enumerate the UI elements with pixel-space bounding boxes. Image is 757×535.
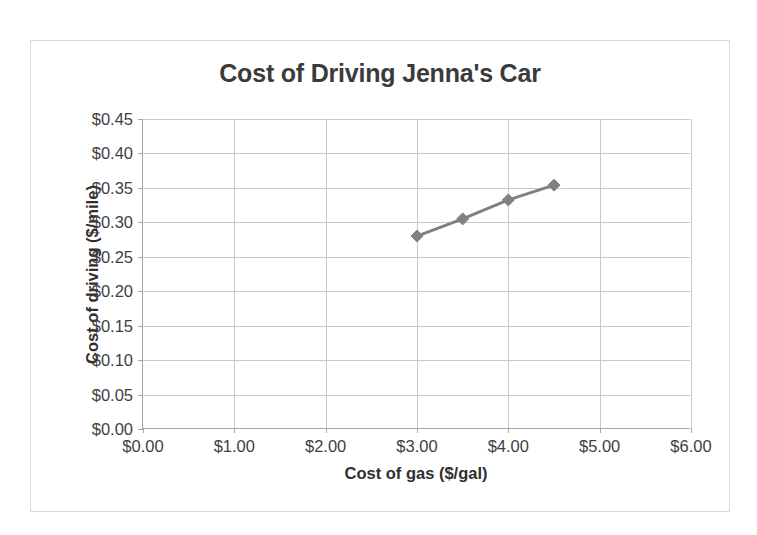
data-point-marker — [411, 230, 423, 242]
y-axis-tick-label: $0.30 — [92, 213, 133, 232]
x-axis-tick-label: $4.00 — [488, 437, 529, 456]
data-point-marker — [548, 179, 560, 191]
y-axis-tick-label: $0.40 — [92, 144, 133, 163]
x-axis-tick-label: $5.00 — [579, 437, 620, 456]
y-axis-tick-label: $0.45 — [92, 110, 133, 129]
x-axis-tick-label: $6.00 — [670, 437, 711, 456]
gridline-vertical — [691, 119, 692, 428]
chart-frame: Cost of Driving Jenna's Car Cost of driv… — [30, 40, 730, 512]
y-axis-tick-label: $0.20 — [92, 282, 133, 301]
x-axis-tick-label: $3.00 — [396, 437, 437, 456]
y-axis-tick-label: $0.35 — [92, 178, 133, 197]
y-axis-tick-label: $0.05 — [92, 385, 133, 404]
plot-area: $0.00$0.05$0.10$0.15$0.20$0.25$0.30$0.35… — [142, 119, 690, 429]
chart-title: Cost of Driving Jenna's Car — [31, 59, 729, 88]
x-axis-title: Cost of gas ($/gal) — [142, 464, 690, 483]
y-axis-tick-label: $0.25 — [92, 247, 133, 266]
x-axis-tick-label: $0.00 — [122, 437, 163, 456]
x-axis-tick-label: $2.00 — [305, 437, 346, 456]
y-axis-title: Cost of driving ($/mile) — [81, 119, 103, 429]
y-axis-tick-label: $0.00 — [92, 420, 133, 439]
data-series-line — [143, 119, 691, 429]
y-axis-title-label: Cost of driving ($/mile) — [83, 185, 102, 364]
y-axis-tick-label: $0.15 — [92, 316, 133, 335]
data-point-marker — [502, 194, 514, 206]
y-axis-tick-label: $0.10 — [92, 351, 133, 370]
data-point-marker — [457, 213, 469, 225]
x-axis-tick-label: $1.00 — [214, 437, 255, 456]
x-axis-tick — [691, 428, 692, 433]
series-line — [417, 185, 554, 236]
